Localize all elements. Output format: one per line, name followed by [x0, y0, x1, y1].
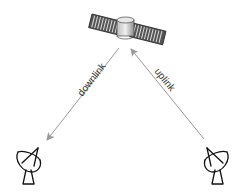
diagram-canvas — [0, 0, 245, 195]
satellite-icon — [89, 14, 166, 45]
uplink-arrow — [131, 49, 204, 139]
satellite-dish-icon — [17, 148, 41, 184]
satellite-dish-icon — [204, 148, 228, 184]
